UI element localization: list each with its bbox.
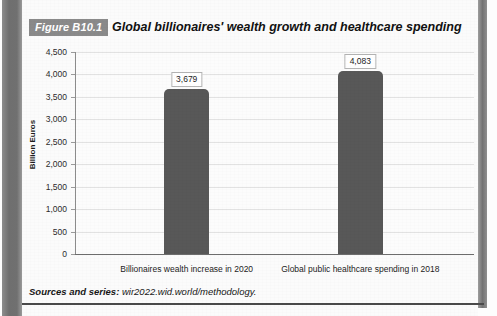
- y-axis-tick: [71, 187, 75, 188]
- y-axis-title: Billion Euros: [28, 75, 37, 215]
- y-axis-tick-label: 2,500: [46, 137, 67, 147]
- bar: [338, 71, 383, 254]
- figure-page: Figure B10.1 Global billionaires' wealth…: [0, 0, 497, 316]
- x-axis-line: [75, 254, 474, 255]
- bar-chart: Billion Euros 05001,0001,5002,0002,5003,…: [24, 44, 476, 280]
- gridline: [75, 164, 474, 165]
- gridline: [75, 74, 474, 75]
- gridline: [75, 52, 474, 53]
- figure-title: Global billionaires' wealth growth and h…: [112, 20, 462, 34]
- sources-line: Sources and series: wir2022.wid.world/me…: [29, 286, 256, 297]
- bar-value-label: 4,083: [345, 54, 376, 69]
- x-axis-category-label: Global public healthcare spending in 201…: [281, 264, 439, 274]
- gridline: [75, 209, 474, 210]
- page-gutter-shadow-left: [2, 0, 22, 316]
- bar: [164, 89, 209, 254]
- y-axis-tick-label: 3,000: [46, 114, 67, 124]
- page-gutter-shadow-right: [478, 0, 487, 308]
- x-axis-category-label: Billionaires wealth increase in 2020: [120, 264, 253, 274]
- plot-area: [75, 52, 474, 254]
- y-axis-tick: [71, 232, 75, 233]
- y-axis-tick-label: 2,000: [46, 159, 67, 169]
- y-axis-tick: [71, 209, 75, 210]
- y-axis-tick-label: 4,000: [46, 69, 67, 79]
- gridline: [75, 232, 474, 233]
- y-axis-tick: [71, 142, 75, 143]
- y-axis-tick: [71, 52, 75, 53]
- gridline: [75, 187, 474, 188]
- y-axis-line: [75, 52, 76, 255]
- y-axis-tick-label: 4,500: [46, 47, 67, 57]
- y-axis-tick-label: 1,500: [46, 182, 67, 192]
- y-axis-tick-label: 1,000: [46, 204, 67, 214]
- sources-reference: wir2022.wid.world/methodology.: [122, 286, 256, 297]
- figure-number-badge: Figure B10.1: [29, 19, 108, 36]
- y-axis-tick-label: 3,500: [46, 92, 67, 102]
- sources-prefix: Sources and series:: [29, 286, 119, 297]
- y-axis-tick-label: 0: [62, 249, 67, 259]
- gridline: [75, 142, 474, 143]
- y-axis-tick-label: 500: [53, 227, 67, 237]
- gridline: [75, 119, 474, 120]
- y-axis-tick: [71, 164, 75, 165]
- y-axis-tick: [71, 119, 75, 120]
- y-axis-tick: [71, 254, 75, 255]
- gridline: [75, 97, 474, 98]
- y-axis-tick: [71, 97, 75, 98]
- y-axis-tick: [71, 74, 75, 75]
- bar-value-label: 3,679: [171, 72, 202, 87]
- figure-bottom-rule: [22, 303, 484, 305]
